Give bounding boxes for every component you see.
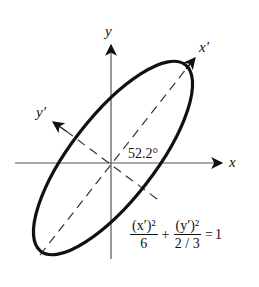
fraction-x-prime: (x′)² 6 (130, 218, 158, 252)
fraction-numerator: (x′)² (130, 218, 158, 235)
equals-sign: = (205, 227, 213, 243)
fraction-denominator: 6 (140, 235, 147, 251)
y-axis-label: y (105, 24, 112, 39)
y-prime-arrow (53, 122, 66, 131)
plus-sign: + (162, 227, 170, 243)
fraction-denominator: 2 / 3 (175, 235, 200, 251)
equation-rhs: 1 (215, 227, 222, 243)
x-prime-axis-label: x′ (199, 40, 209, 55)
y-prime-axis-label: y′ (36, 105, 46, 120)
x-axis-label: x (229, 155, 236, 170)
fraction-y-prime: (y′)² 2 / 3 (174, 218, 202, 252)
rotation-angle-label: 52.2° (128, 147, 158, 161)
ellipse-equation: (x′)² 6 + (y′)² 2 / 3 = 1 (128, 218, 222, 252)
fraction-numerator: (y′)² (174, 218, 202, 235)
